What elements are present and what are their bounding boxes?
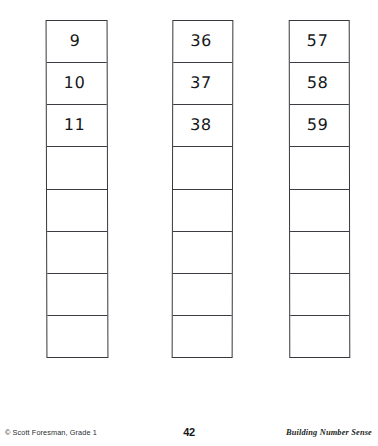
number-cell-value: 57 <box>306 33 328 49</box>
number-strip-2: 363738 <box>172 20 234 358</box>
number-cell-blank[interactable] <box>47 189 107 231</box>
number-cell-filled[interactable]: 59 <box>290 105 349 147</box>
worksheet-page: 91011 363738 575859 © Scott Foresman, Gr… <box>0 0 378 446</box>
number-cell-filled[interactable]: 9 <box>47 21 107 63</box>
number-cell-blank[interactable] <box>173 232 232 274</box>
number-cell-filled[interactable]: 57 <box>290 21 349 63</box>
number-cell-blank[interactable] <box>47 316 107 357</box>
number-cell-blank[interactable] <box>173 274 232 316</box>
number-cell-blank[interactable] <box>173 147 232 189</box>
number-cell-blank[interactable] <box>290 147 349 189</box>
number-cell-blank[interactable] <box>290 274 349 316</box>
footer-series-title: Building Number Sense <box>286 428 372 437</box>
number-cell-filled[interactable]: 38 <box>173 105 232 147</box>
number-cell-blank[interactable] <box>173 189 232 231</box>
number-cell-blank[interactable] <box>173 316 232 357</box>
number-cell-value: 9 <box>69 33 80 49</box>
number-cell-value: 38 <box>190 117 212 133</box>
number-cell-value: 37 <box>190 75 212 91</box>
number-cell-filled[interactable]: 11 <box>47 105 107 147</box>
number-cell-filled[interactable]: 58 <box>290 63 349 105</box>
number-cell-filled[interactable]: 36 <box>173 21 232 63</box>
number-cell-blank[interactable] <box>290 316 349 357</box>
number-cell-value: 59 <box>306 117 328 133</box>
number-cell-blank[interactable] <box>47 147 107 189</box>
number-cell-blank[interactable] <box>47 232 107 274</box>
number-strip-1: 91011 <box>46 20 109 358</box>
number-cell-value: 10 <box>64 75 86 91</box>
number-strip-3: 575859 <box>289 20 351 358</box>
number-cell-value: 58 <box>306 75 328 91</box>
number-cell-value: 36 <box>190 33 212 49</box>
number-cell-blank[interactable] <box>290 232 349 274</box>
number-cell-value: 11 <box>64 117 86 133</box>
number-cell-blank[interactable] <box>47 274 107 316</box>
number-cell-blank[interactable] <box>290 189 349 231</box>
page-footer: © Scott Foresman, Grade 1 42 Building Nu… <box>0 419 378 437</box>
number-cell-filled[interactable]: 37 <box>173 63 232 105</box>
number-cell-filled[interactable]: 10 <box>47 63 107 105</box>
